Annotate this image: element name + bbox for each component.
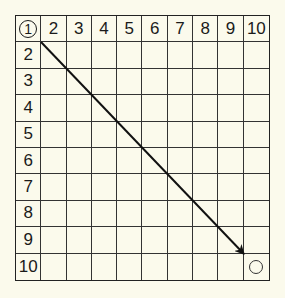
grid-cell — [67, 148, 92, 174]
column-header: 9 — [218, 16, 243, 42]
grid-cell — [142, 122, 167, 148]
row-header: 5 — [16, 122, 41, 148]
grid-cell — [67, 201, 92, 227]
circled-one-label: 1 — [19, 20, 37, 38]
grid-cell — [218, 148, 243, 174]
goal-cell — [244, 254, 269, 280]
grid-cell — [193, 148, 218, 174]
grid-cell — [117, 42, 142, 68]
grid-cell — [244, 227, 269, 253]
grid-cell — [218, 95, 243, 121]
number-grid: 123456789102345678910 — [15, 15, 270, 281]
grid-cell — [117, 227, 142, 253]
grid-cell — [117, 95, 142, 121]
grid-cell — [67, 69, 92, 95]
row-header: 3 — [16, 69, 41, 95]
grid-cell — [218, 174, 243, 200]
grid-cell — [117, 148, 142, 174]
grid-cell — [92, 95, 117, 121]
grid-cell — [67, 122, 92, 148]
grid-cell — [218, 42, 243, 68]
grid-cell — [41, 201, 66, 227]
grid-cell — [41, 227, 66, 253]
grid-cell — [67, 42, 92, 68]
row-header: 7 — [16, 174, 41, 200]
grid-cell — [193, 254, 218, 280]
column-header: 5 — [117, 16, 142, 42]
start-cell: 1 — [16, 16, 41, 42]
grid-cell — [41, 42, 66, 68]
row-header: 6 — [16, 148, 41, 174]
grid-cell — [244, 69, 269, 95]
grid-cell — [41, 174, 66, 200]
grid-cell — [168, 227, 193, 253]
grid-cell — [244, 174, 269, 200]
grid-cell — [193, 42, 218, 68]
grid-cell — [193, 227, 218, 253]
column-header: 3 — [67, 16, 92, 42]
column-header: 7 — [168, 16, 193, 42]
grid-cell — [41, 122, 66, 148]
grid-cell — [193, 201, 218, 227]
grid-cell — [218, 122, 243, 148]
grid-cell — [117, 174, 142, 200]
grid-cell — [193, 122, 218, 148]
grid-cell — [92, 254, 117, 280]
grid-cell — [218, 201, 243, 227]
grid-cell — [92, 174, 117, 200]
grid-cell — [67, 174, 92, 200]
grid-cell — [41, 95, 66, 121]
grid-cell — [168, 69, 193, 95]
column-header: 2 — [41, 16, 66, 42]
grid-cell — [244, 95, 269, 121]
grid-cell — [168, 148, 193, 174]
grid-cell — [218, 227, 243, 253]
grid-cell — [142, 201, 167, 227]
column-header: 10 — [244, 16, 269, 42]
grid-cell — [117, 254, 142, 280]
grid-cell — [92, 148, 117, 174]
goal-circle-icon — [249, 260, 263, 274]
grid-cell — [244, 201, 269, 227]
grid-cell — [218, 254, 243, 280]
grid-cell — [142, 42, 167, 68]
grid-cell — [41, 148, 66, 174]
grid-cell — [168, 95, 193, 121]
grid-cell — [142, 69, 167, 95]
grid-cell — [168, 174, 193, 200]
grid-cell — [92, 227, 117, 253]
grid-cell — [193, 69, 218, 95]
grid-cell — [168, 254, 193, 280]
grid-cell — [41, 254, 66, 280]
row-header: 9 — [16, 227, 41, 253]
grid-cell — [92, 42, 117, 68]
grid-cell — [142, 174, 167, 200]
grid-cell — [142, 227, 167, 253]
row-header: 4 — [16, 95, 41, 121]
grid-cell — [142, 95, 167, 121]
grid-cell — [92, 201, 117, 227]
grid-cell — [41, 69, 66, 95]
row-header: 8 — [16, 201, 41, 227]
row-header: 10 — [16, 254, 41, 280]
grid-cell — [244, 122, 269, 148]
grid-cell — [92, 69, 117, 95]
grid-cell — [142, 148, 167, 174]
row-header: 2 — [16, 42, 41, 68]
grid-cell — [117, 122, 142, 148]
grid-cell — [117, 69, 142, 95]
grid-cell — [168, 42, 193, 68]
grid-cell — [193, 174, 218, 200]
grid-cell — [168, 122, 193, 148]
grid-cell — [244, 148, 269, 174]
grid-cell — [142, 254, 167, 280]
grid-cell — [117, 201, 142, 227]
grid-cell — [67, 95, 92, 121]
grid-cell — [244, 42, 269, 68]
column-header: 6 — [142, 16, 167, 42]
grid-cell — [92, 122, 117, 148]
column-header: 8 — [193, 16, 218, 42]
grid-cell — [218, 69, 243, 95]
column-header: 4 — [92, 16, 117, 42]
grid-cell — [168, 201, 193, 227]
